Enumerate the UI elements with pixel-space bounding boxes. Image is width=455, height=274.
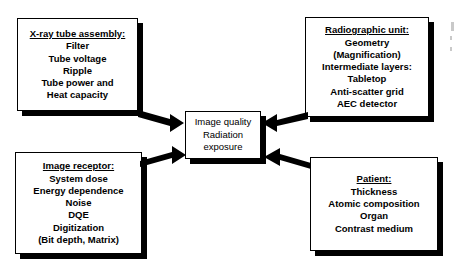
node-item: Thickness (351, 186, 397, 198)
node-item: Heat capacity (47, 89, 108, 101)
clipped-edge-fragment (450, 47, 452, 51)
arrow-xray-to-center (138, 110, 184, 132)
center-line: Image quality (195, 116, 252, 129)
clipped-edge-fragment (450, 36, 452, 40)
node-xray-tube-assembly[interactable]: X-ray tube assembly: Filter Tube voltage… (17, 18, 138, 111)
node-item: Tube power and (41, 77, 113, 89)
node-item: (Bit depth, Matrix) (38, 234, 119, 246)
node-item: Contrast medium (335, 223, 413, 235)
node-item: Atomic composition (328, 198, 419, 210)
node-item: Filter (66, 40, 89, 52)
arrow-receptor-to-center (140, 146, 186, 167)
node-header: Patient: (357, 173, 392, 185)
node-image-receptor[interactable]: Image receptor: System dose Energy depen… (15, 152, 142, 254)
node-item: Tabletop (348, 73, 387, 85)
node-radiographic-unit[interactable]: Radiographic unit: Geometry (Magnificati… (305, 17, 429, 117)
node-item: DQE (68, 209, 89, 221)
node-header: X-ray tube assembly: (30, 28, 126, 40)
node-item: System dose (49, 173, 108, 185)
node-patient[interactable]: Patient: Thickness Atomic composition Or… (310, 157, 438, 251)
node-item: Anti-scatter grid (330, 86, 403, 98)
arrow-radunit-to-center (262, 112, 308, 132)
node-item: AEC detector (337, 98, 397, 110)
node-item: (Magnification) (333, 49, 401, 61)
diagram-canvas: X-ray tube assembly: Filter Tube voltage… (0, 0, 455, 274)
node-item: Tube voltage (49, 53, 107, 65)
node-item: Digitization (53, 222, 104, 234)
node-header: Image receptor: (43, 160, 114, 172)
node-item: Organ (360, 210, 388, 222)
node-item: Noise (66, 197, 92, 209)
node-item: Intermediate layers: (322, 61, 412, 73)
node-header: Radiographic unit: (325, 24, 409, 36)
node-item: Energy dependence (33, 185, 123, 197)
arrow-patient-to-center (264, 148, 311, 169)
node-item: Geometry (345, 37, 389, 49)
center-line: Radiation (203, 129, 243, 142)
node-item: Ripple (63, 65, 92, 77)
center-line: exposure (203, 141, 242, 154)
node-image-quality-radiation-exposure[interactable]: Image quality Radiation exposure (185, 111, 261, 159)
clipped-edge-fragment (451, 22, 454, 31)
